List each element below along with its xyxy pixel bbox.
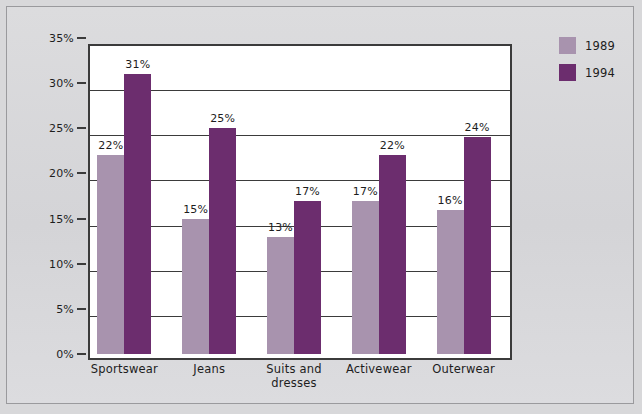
bar-value-label: 22% bbox=[98, 139, 123, 152]
bar-1989-outerwear[interactable] bbox=[437, 210, 464, 354]
chart-legend: 19891994 bbox=[559, 37, 615, 91]
y-axis-tick-mark bbox=[77, 172, 86, 174]
y-axis-tick-label: 20% bbox=[30, 167, 74, 180]
bar-value-label: 17% bbox=[295, 185, 320, 198]
bar-value-label: 17% bbox=[353, 185, 378, 198]
bar-1989-activewear[interactable] bbox=[352, 201, 379, 354]
bar-value-label: 25% bbox=[210, 112, 235, 125]
bar-value-label: 24% bbox=[465, 121, 490, 134]
y-axis-tick-label: 25% bbox=[30, 122, 74, 135]
y-axis-tick-label: 0% bbox=[30, 348, 74, 361]
legend-item[interactable]: 1989 bbox=[559, 37, 615, 54]
chart-background: 0%5%10%15%20%25%30%35% 22%31%15%25%13%17… bbox=[0, 0, 642, 414]
y-axis-tick-mark bbox=[77, 82, 86, 84]
bar-1989-sportswear[interactable] bbox=[97, 155, 124, 354]
legend-swatch-icon bbox=[559, 37, 576, 54]
bar-1989-suits-and-dresses[interactable] bbox=[267, 237, 294, 354]
bar-value-label: 31% bbox=[125, 58, 150, 71]
y-axis-tick-label: 35% bbox=[30, 32, 74, 45]
legend-swatch-icon bbox=[559, 64, 576, 81]
bar-value-label: 22% bbox=[380, 139, 405, 152]
category-label: Outerwear bbox=[432, 362, 495, 376]
y-axis-tick-mark bbox=[77, 353, 86, 355]
bar-1994-sportswear[interactable] bbox=[124, 74, 151, 354]
legend-label: 1989 bbox=[585, 39, 615, 53]
y-axis-tick-mark bbox=[77, 127, 86, 129]
bar-1994-activewear[interactable] bbox=[379, 155, 406, 354]
bar-value-label: 15% bbox=[183, 203, 208, 216]
bar-1994-outerwear[interactable] bbox=[464, 137, 491, 354]
y-axis-tick-label: 15% bbox=[30, 212, 74, 225]
bar-1994-jeans[interactable] bbox=[209, 128, 236, 354]
bar-value-label: 13% bbox=[268, 221, 293, 234]
bar-1994-suits-and-dresses[interactable] bbox=[294, 201, 321, 354]
category-label: Activewear bbox=[346, 362, 412, 376]
gridline bbox=[90, 180, 510, 181]
y-axis-tick-mark bbox=[77, 263, 86, 265]
bar-1989-jeans[interactable] bbox=[182, 219, 209, 354]
y-axis-tick-label: 30% bbox=[30, 77, 74, 90]
y-axis-tick-mark bbox=[77, 308, 86, 310]
y-axis-tick-label: 5% bbox=[30, 302, 74, 315]
y-axis-tick-label: 10% bbox=[30, 257, 74, 270]
gridline bbox=[90, 90, 510, 91]
y-axis-tick-mark bbox=[77, 218, 86, 220]
category-label: Jeans bbox=[193, 362, 225, 376]
bar-value-label: 16% bbox=[438, 194, 463, 207]
legend-label: 1994 bbox=[585, 66, 615, 80]
category-label: Sportswear bbox=[91, 362, 158, 376]
y-axis-tick-mark bbox=[77, 37, 86, 39]
gridline bbox=[90, 135, 510, 136]
category-label: Suits and dresses bbox=[266, 362, 321, 390]
image-frame: 0%5%10%15%20%25%30%35% 22%31%15%25%13%17… bbox=[6, 6, 634, 404]
legend-item[interactable]: 1994 bbox=[559, 64, 615, 81]
